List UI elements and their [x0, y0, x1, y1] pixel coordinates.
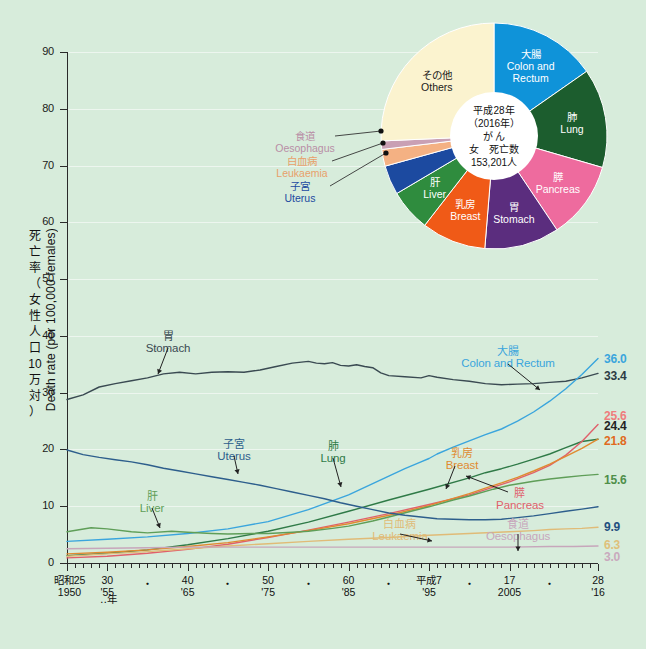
series-label-breast: 乳房Breast — [446, 447, 479, 471]
series-label-lung: 肺Lung — [320, 440, 345, 464]
series-end-value-pancreas: 24.4 — [604, 419, 627, 433]
pie-center-line-2: が ん — [483, 130, 506, 143]
series-end-value-liver: 15.6 — [604, 473, 627, 487]
series-label-leukaemia: 白血病Leukaemia — [372, 518, 427, 542]
pie-center-label: 平成28年（2016年）が ん女 死亡数153,201人 — [450, 92, 538, 180]
series-end-value-oesophagus: 3.0 — [604, 550, 620, 564]
series-label-pancreas: 膵Pancreas — [496, 487, 544, 511]
series-label-oesophagus: 食道Oesophagus — [486, 518, 550, 542]
pie-label-pancreas: 膵Pancreas — [536, 171, 580, 195]
series-end-value-stomach: 33.4 — [604, 369, 627, 383]
series-end-value-uterus: 9.9 — [604, 520, 620, 534]
pie-center-line-4: 153,201人 — [471, 156, 517, 169]
pie-callout-label-oesophagus: 食道Oesophagus — [275, 130, 335, 154]
series-label-uterus: 子宮Uterus — [217, 438, 250, 462]
pie-callout-label-uterus: 子宮Uterus — [285, 180, 316, 204]
pie-label-colon-and-rectum: 大腸Colon andRectum — [507, 48, 555, 84]
pie-callout-label-leukaemia: 白血病Leukaemia — [276, 155, 327, 179]
pie-center-line-1: （2016年） — [468, 117, 520, 130]
series-label-liver: 肝Liver — [140, 490, 164, 514]
series-end-value-colon-and-rectum: 36.0 — [604, 352, 627, 366]
chart-canvas: 死亡率（女性人口10万対） Death rate (per 100,000 fe… — [0, 0, 646, 649]
pie-label-stomach: 胃Stomach — [493, 201, 534, 225]
series-end-value-breast: 21.8 — [604, 434, 627, 448]
pie-label-lung: 肺Lung — [560, 111, 583, 135]
pie-label-others: その他Others — [421, 69, 453, 93]
pie-center-line-0: 平成28年 — [473, 104, 514, 117]
pie-label-breast: 乳房Breast — [450, 198, 480, 222]
series-line-oesophagus — [67, 546, 598, 549]
pie-center-line-3: 女 死亡数 — [469, 143, 519, 156]
pie-chart: 平成28年（2016年）が ん女 死亡数153,201人 大腸Colon and… — [378, 20, 608, 252]
series-label-stomach: 胃Stomach — [146, 330, 191, 354]
pie-label-liver: 肝Liver — [423, 176, 446, 200]
series-label-colon-and-rectum: 大腸Colon and Rectum — [461, 345, 555, 369]
